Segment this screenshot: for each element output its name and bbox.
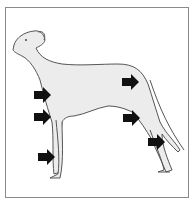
dog-body [13, 31, 180, 174]
eye [25, 39, 27, 41]
arrow-front-pastern [38, 149, 55, 165]
greyhound-illustration [0, 0, 196, 204]
